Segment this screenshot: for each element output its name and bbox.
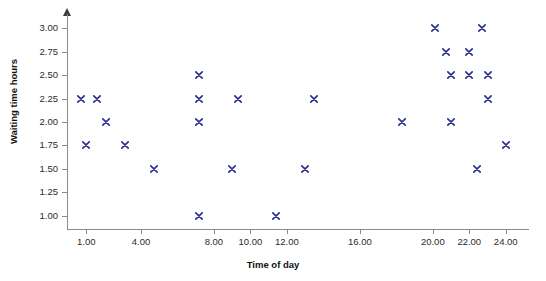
- x-tick-mark: [250, 229, 251, 234]
- data-point: [271, 211, 280, 220]
- x-tick-mark: [469, 229, 470, 234]
- x-tick-label: 8.00: [205, 236, 224, 247]
- x-tick-label: 24.00: [494, 236, 518, 247]
- data-point: [441, 47, 450, 56]
- data-point: [301, 164, 310, 173]
- y-tick-label: 1.75: [26, 139, 58, 150]
- data-point: [195, 118, 204, 127]
- scatter-chart: 1.001.251.501.752.002.252.502.753.00 1.0…: [0, 0, 546, 281]
- x-tick-label: 4.00: [132, 236, 151, 247]
- y-tick-label: 2.75: [26, 46, 58, 57]
- x-tick-label: 1.00: [77, 236, 96, 247]
- y-tick-label: 1.50: [26, 163, 58, 174]
- x-tick-mark: [506, 229, 507, 234]
- y-tick-mark: [62, 122, 67, 123]
- data-point: [76, 94, 85, 103]
- y-axis-title: Waiting time hours: [8, 42, 19, 162]
- data-point: [233, 94, 242, 103]
- data-point: [149, 164, 158, 173]
- x-tick-label: 12.00: [275, 236, 299, 247]
- y-tick-label: 1.25: [26, 186, 58, 197]
- data-point: [195, 94, 204, 103]
- data-point: [478, 24, 487, 33]
- y-tick-label: 2.00: [26, 116, 58, 127]
- x-tick-label: 20.00: [421, 236, 445, 247]
- data-point: [501, 141, 510, 150]
- y-tick-mark: [62, 192, 67, 193]
- data-point: [310, 94, 319, 103]
- data-point: [82, 141, 91, 150]
- y-tick-mark: [62, 52, 67, 53]
- data-point: [228, 164, 237, 173]
- data-point: [93, 94, 102, 103]
- y-tick-label: 1.00: [26, 210, 58, 221]
- data-point: [465, 71, 474, 80]
- x-axis-line: [67, 229, 529, 230]
- data-point: [465, 47, 474, 56]
- y-axis-line: [67, 14, 68, 230]
- x-tick-label: 22.00: [457, 236, 481, 247]
- data-point: [195, 71, 204, 80]
- data-point: [447, 71, 456, 80]
- x-tick-mark: [360, 229, 361, 234]
- x-tick-label: 10.00: [239, 236, 263, 247]
- y-tick-label: 2.50: [26, 69, 58, 80]
- y-tick-mark: [62, 28, 67, 29]
- x-tick-mark: [86, 229, 87, 234]
- data-point: [430, 24, 439, 33]
- x-tick-mark: [287, 229, 288, 234]
- x-tick-mark: [141, 229, 142, 234]
- data-point: [447, 118, 456, 127]
- y-tick-label: 3.00: [26, 22, 58, 33]
- data-point: [483, 94, 492, 103]
- y-tick-mark: [62, 75, 67, 76]
- y-tick-mark: [62, 216, 67, 217]
- y-tick-mark: [62, 169, 67, 170]
- y-tick-label: 2.25: [26, 93, 58, 104]
- data-point: [483, 71, 492, 80]
- data-point: [397, 118, 406, 127]
- data-point: [195, 211, 204, 220]
- plot-area: [68, 14, 524, 230]
- y-tick-mark: [62, 99, 67, 100]
- x-tick-mark: [214, 229, 215, 234]
- data-point: [102, 118, 111, 127]
- x-tick-mark: [433, 229, 434, 234]
- data-point: [472, 164, 481, 173]
- data-point: [120, 141, 129, 150]
- x-tick-label: 16.00: [348, 236, 372, 247]
- y-tick-mark: [62, 145, 67, 146]
- x-axis-title: Time of day: [0, 259, 546, 270]
